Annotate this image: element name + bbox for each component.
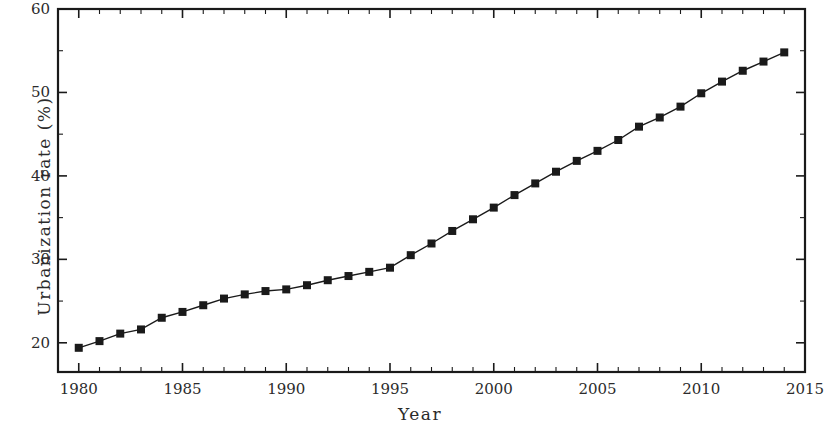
plot-canvas	[0, 0, 826, 429]
data-point-marker	[552, 168, 560, 176]
data-point-marker	[780, 48, 788, 56]
x-tick-label-2005: 2005	[568, 380, 628, 398]
y-tick-label-60: 60	[6, 0, 50, 18]
x-tick-label-2015: 2015	[775, 380, 826, 398]
data-point-marker	[760, 58, 768, 66]
data-point-marker	[718, 78, 726, 86]
data-point-marker	[303, 281, 311, 289]
x-tick-label-1980: 1980	[49, 380, 109, 398]
data-point-marker	[282, 285, 290, 293]
data-point-marker	[656, 113, 664, 121]
data-point-marker	[137, 325, 145, 333]
data-point-marker	[739, 67, 747, 75]
data-point-marker	[448, 227, 456, 235]
data-point-marker	[199, 301, 207, 309]
data-point-marker	[158, 314, 166, 322]
y-tick-label-20: 20	[6, 334, 50, 352]
data-point-marker	[365, 268, 373, 276]
data-point-marker	[428, 239, 436, 247]
data-point-marker	[614, 136, 622, 144]
y-axis-title: Urbanization rate (%)	[34, 76, 54, 336]
x-tick-label-1990: 1990	[256, 380, 316, 398]
plot-frame	[58, 9, 805, 372]
data-point-marker	[345, 272, 353, 280]
data-point-marker	[179, 308, 187, 316]
data-point-marker	[262, 287, 270, 295]
x-tick-label-2000: 2000	[464, 380, 524, 398]
data-point-marker	[677, 103, 685, 111]
data-point-marker	[386, 264, 394, 272]
data-point-marker	[324, 276, 332, 284]
data-point-marker	[490, 204, 498, 212]
x-tick-label-2010: 2010	[671, 380, 731, 398]
data-point-marker	[594, 147, 602, 155]
data-point-marker	[573, 157, 581, 165]
data-point-marker	[511, 191, 519, 199]
plot-border	[58, 9, 805, 372]
data-point-marker	[96, 337, 104, 345]
x-tick-label-1995: 1995	[360, 380, 420, 398]
data-point-marker	[116, 330, 124, 338]
data-point-marker	[469, 215, 477, 223]
data-point-marker	[635, 123, 643, 131]
x-axis-title: Year	[398, 404, 442, 424]
data-point-marker	[241, 290, 249, 298]
data-point-marker	[220, 295, 228, 303]
data-point-marker	[697, 89, 705, 97]
data-point-marker	[75, 344, 83, 352]
data-point-marker	[407, 251, 415, 259]
x-tick-label-1985: 1985	[153, 380, 213, 398]
data-point-marker	[531, 179, 539, 187]
urbanization-rate-line-chart: 19801985199019952000200520102015 2030405…	[0, 0, 826, 429]
